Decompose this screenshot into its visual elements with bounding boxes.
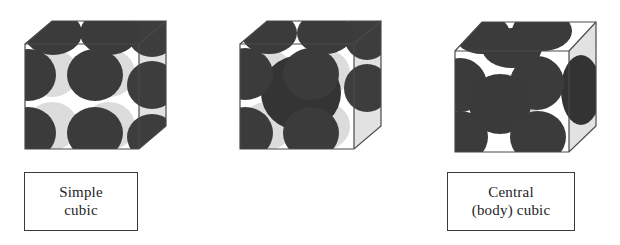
simple-cubic-diagram xyxy=(0,0,206,165)
face-centered-cubic-diagram xyxy=(420,0,620,165)
crystal-structures-figure: Simple cubic xyxy=(0,0,620,245)
central-body-cubic-diagram xyxy=(207,0,413,165)
label-line-1: Simple xyxy=(59,184,103,202)
panel-central-body-cubic: Central (body) cubic xyxy=(207,0,413,245)
label-box-simple-cubic: Simple cubic xyxy=(24,172,138,231)
panel-simple-cubic: Simple cubic xyxy=(0,0,206,245)
label-line-2: cubic xyxy=(64,202,97,220)
right-face-center-sphere xyxy=(561,55,601,125)
panel-face-centered-cubic: Face-centered cubic xyxy=(420,0,620,245)
